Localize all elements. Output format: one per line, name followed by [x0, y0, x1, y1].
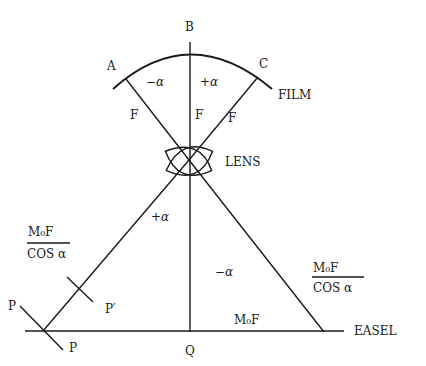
left-fraction-denominator: COS α [27, 247, 66, 261]
point-B-label: B [185, 20, 194, 34]
point-Q-label: Q [185, 344, 195, 358]
ray-lens-to-easel-right [189, 160, 324, 332]
point-A-label: A [106, 59, 116, 73]
angle-top-left: −α [146, 75, 164, 89]
angle-bottom-left: +α [151, 210, 169, 224]
easel-label: EASEL [354, 324, 396, 338]
ray-lens-to-P [43, 160, 189, 331]
right-fraction: M₀F COS α [312, 261, 364, 295]
right-fraction-denominator: COS α [313, 281, 352, 295]
left-fraction-numerator: M₀F [28, 225, 53, 239]
bottom-distance-label: M₀F [234, 313, 259, 327]
focal-right-label: F [228, 111, 236, 125]
point-C-label: C [259, 57, 268, 71]
point-P-top-label: P [8, 299, 16, 313]
point-P-prime-label: P′ [105, 302, 116, 316]
focal-center-label: F [195, 108, 203, 122]
focal-left-label: F [130, 108, 138, 122]
point-P-bottom-label: P [69, 341, 77, 355]
angle-bottom-right: −α [215, 265, 233, 279]
angle-top-right: +α [200, 75, 218, 89]
left-fraction: M₀F COS α [27, 225, 70, 261]
right-fraction-numerator: M₀F [313, 261, 338, 275]
lens-label: LENS [225, 155, 260, 169]
optical-diagram: B A C FILM LENS EASEL Q P P P′ F F F −α … [0, 0, 426, 366]
film-arc [113, 55, 272, 90]
tilted-plane-P [20, 306, 63, 350]
film-label: FILM [278, 88, 311, 102]
